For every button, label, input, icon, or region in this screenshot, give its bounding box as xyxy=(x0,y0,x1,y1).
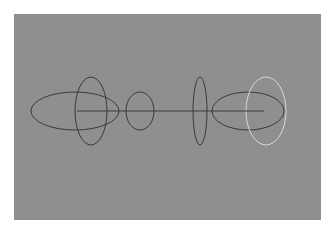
ellipse-diagram xyxy=(0,0,336,232)
